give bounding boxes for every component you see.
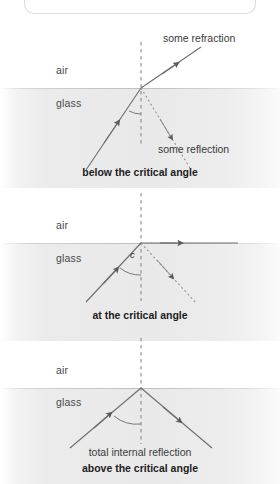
angle-arc-icon	[120, 268, 141, 275]
panel-2-caption: at the critical angle	[0, 309, 280, 321]
reflected-ray-arrow-icon	[163, 407, 181, 422]
panel-above-critical-angle: air glass total internal reflection abov…	[0, 334, 280, 475]
angle-arc-icon	[114, 416, 141, 424]
critical-angle-label: c	[130, 249, 135, 260]
panel-at-critical-angle: air glass c at the critical angle	[0, 190, 280, 332]
angle-arc-icon	[129, 111, 141, 114]
panel-1-caption: below the critical angle	[0, 166, 280, 178]
incident-ray-arrow-icon	[94, 413, 111, 428]
air-label: air	[56, 219, 68, 231]
air-label: air	[56, 64, 68, 76]
panel-below-critical-angle: air glass some refraction some reflectio…	[0, 26, 280, 188]
incident-ray-arrow-icon	[103, 268, 118, 284]
refracted-ray-label: some refraction	[163, 32, 235, 44]
top-rounded-box	[24, 0, 256, 14]
glass-label: glass	[56, 252, 82, 264]
reflected-ray-label: some reflection	[158, 143, 229, 155]
refracted-ray-arrow-icon	[162, 63, 178, 74]
reflected-ray-arrow-icon	[160, 119, 172, 139]
ray-diagram-1	[0, 26, 280, 188]
air-label: air	[56, 364, 68, 376]
glass-label: glass	[56, 97, 82, 109]
panel-3-sub-caption: total internal reflection	[0, 446, 280, 458]
glass-label: glass	[56, 396, 82, 408]
reflected-ray-arrow-icon	[157, 260, 173, 278]
incident-ray-arrow-icon	[104, 121, 119, 143]
panel-3-caption: above the critical angle	[0, 462, 280, 474]
